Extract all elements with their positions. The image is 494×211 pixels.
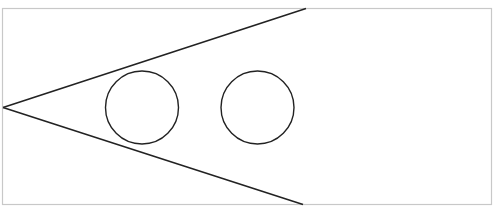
frame-border	[3, 9, 492, 205]
circle-right	[221, 71, 294, 144]
wedge-bottom-line	[3, 108, 303, 205]
diagram-canvas	[0, 0, 494, 211]
circle-left	[106, 71, 179, 144]
wedge-top-line	[3, 9, 306, 108]
